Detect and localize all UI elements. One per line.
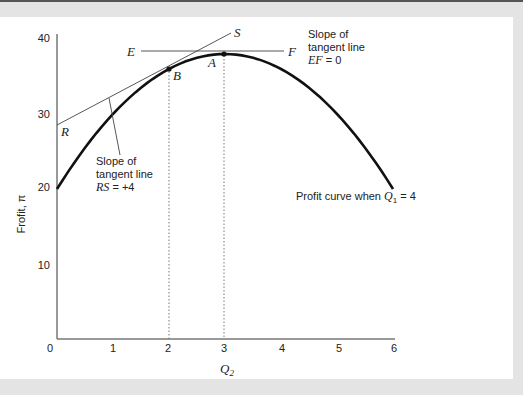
label-e: E [126,44,135,59]
rs-note-line3: RS = +4 [95,180,134,194]
label-r: R [60,124,69,139]
ef-note-line3: EF = 0 [307,53,341,67]
rs-leader-line [109,98,120,155]
label-f: F [287,44,297,59]
label-s: S [234,25,241,40]
ef-note-line2: tangent line [308,41,365,53]
rs-note-line1: Slope of [96,155,137,167]
label-a: A [207,55,216,70]
annotations-layer: B A R S E F Slope of tangent line RS = +… [0,0,523,395]
point-b [166,66,171,71]
curve-label: Profit curve when Q1 = 4 [296,189,416,205]
rs-note-line2: tangent line [96,168,153,180]
label-b: B [173,68,181,83]
point-a [221,51,226,56]
ef-note-line1: Slope of [308,28,349,40]
